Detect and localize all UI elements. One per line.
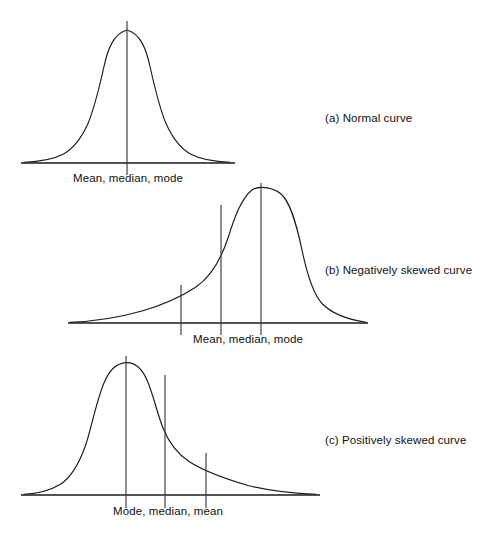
negatively-skewed-curve-path — [70, 187, 366, 322]
distribution-curves-svg — [0, 0, 501, 558]
panel-c-axis-label: Mode, median, mean — [113, 505, 223, 517]
panel-a-normal-curve — [21, 21, 235, 175]
panel-b-axis-label: Mean, median, mode — [193, 333, 303, 345]
positively-skewed-curve-path — [24, 363, 316, 495]
panel-c-positively-skewed-curve — [21, 356, 320, 508]
panel-a-caption: (a) Normal curve — [325, 112, 412, 124]
statistical-distributions-figure: Mean, median, mode Mean, median, mode Mo… — [0, 0, 501, 558]
panel-a-axis-label: Mean, median, mode — [73, 172, 183, 184]
panel-b-negatively-skewed-curve — [68, 183, 368, 335]
panel-c-caption: (c) Positively skewed curve — [325, 434, 466, 446]
panel-b-caption: (b) Negatively skewed curve — [325, 264, 472, 276]
